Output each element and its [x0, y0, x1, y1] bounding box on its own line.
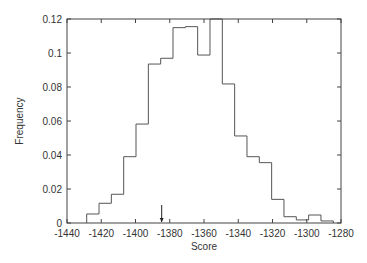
x-tick-label: -1440	[54, 228, 80, 239]
x-tick-label: -1340	[225, 228, 251, 239]
plot-border	[67, 19, 341, 223]
x-tick-label: -1360	[191, 228, 217, 239]
plot-frame	[67, 19, 341, 223]
y-tick-label: 0.06	[43, 116, 63, 127]
x-tick-label: -1320	[260, 228, 286, 239]
x-tick-label: -1300	[294, 228, 320, 239]
y-axis: 00.020.040.060.080.10.12	[43, 14, 341, 229]
x-tick-label: -1380	[157, 228, 183, 239]
x-tick-label: -1280	[328, 228, 354, 239]
y-tick-label: 0.08	[43, 82, 63, 93]
y-tick-label: 0.02	[43, 184, 63, 195]
x-axis-label: Score	[191, 241, 218, 252]
y-tick-label: 0.12	[43, 14, 63, 25]
y-axis-label: Frequency	[14, 97, 25, 144]
annotations	[160, 205, 164, 222]
histogram-series	[87, 19, 334, 223]
histogram-chart: -1440-1420-1400-1380-1360-1340-1320-1300…	[0, 0, 367, 263]
y-tick-label: 0.04	[43, 150, 63, 161]
x-tick-label: -1400	[123, 228, 149, 239]
y-tick-label: 0.1	[48, 48, 62, 59]
arrow-down-icon	[160, 218, 164, 222]
y-tick-label: 0	[56, 218, 62, 229]
histogram-outline	[87, 19, 334, 223]
x-tick-label: -1420	[88, 228, 114, 239]
plot-area: -1440-1420-1400-1380-1360-1340-1320-1300…	[0, 0, 367, 263]
